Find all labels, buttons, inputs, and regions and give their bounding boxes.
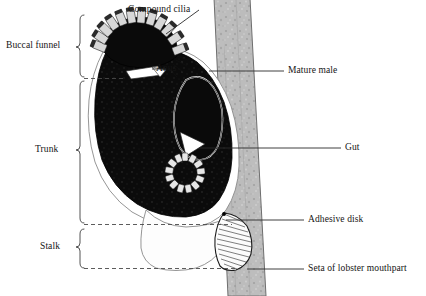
mature-male xyxy=(174,77,223,160)
label-compound-cilia: Compound cilia xyxy=(128,5,190,15)
label-buccal-funnel: Buccal funnel xyxy=(6,41,60,51)
region-brackets xyxy=(76,15,84,268)
label-trunk: Trunk xyxy=(35,145,58,155)
label-anus: Anus xyxy=(156,64,176,74)
label-gut: Gut xyxy=(345,143,360,153)
label-seta-of-lobster-mouthpart: Seta of lobster mouthpart xyxy=(308,264,407,274)
label-adhesive-disk: Adhesive disk xyxy=(308,215,363,225)
label-stalk: Stalk xyxy=(40,242,60,252)
label-mature-male: Mature male xyxy=(288,66,337,76)
diagram-artwork xyxy=(0,0,426,296)
cycliophora-diagram: Compound cilia Anus Mature male Gut Adhe… xyxy=(0,0,426,296)
